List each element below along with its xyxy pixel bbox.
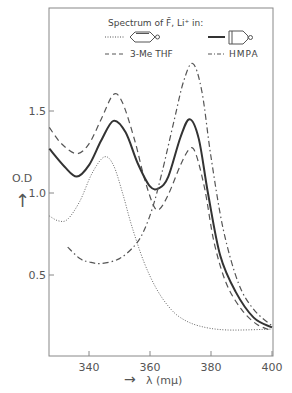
plot-frame: [49, 8, 273, 356]
y-axis-label: O.D: [12, 172, 32, 185]
curve-dashdot: [68, 63, 272, 326]
y-tick-label: 0.5: [29, 269, 47, 282]
x-tick-label: 340: [79, 361, 100, 374]
spectrum-curves: [49, 63, 272, 330]
axis-ticks: [49, 111, 272, 356]
vessel-icon: [229, 31, 253, 44]
legend-title: Spectrum of F̄, Li⁺ in:: [108, 17, 203, 28]
legend-label-hmpa: HMPA: [229, 49, 259, 59]
up-arrow-icon: ↑: [15, 190, 30, 211]
cyclohexene-ring-icon: [130, 32, 160, 42]
legend: Spectrum of F̄, Li⁺ in: 3-Me THF HMPA: [105, 17, 259, 59]
spectrum-chart: 3403603804000.51.01.5 Spectrum of F̄, Li…: [0, 0, 292, 393]
legend-label-3methf: 3-Me THF: [130, 49, 173, 59]
axis-tick-labels: 3403603804000.51.01.5: [29, 105, 283, 374]
x-tick-label: 380: [201, 361, 222, 374]
curve-dotted: [49, 157, 272, 330]
y-tick-label: 1.5: [29, 105, 47, 118]
y-tick-label: 1.0: [29, 187, 47, 200]
x-axis-label: λ (mμ): [146, 374, 182, 387]
x-tick-label: 400: [262, 361, 283, 374]
x-tick-label: 360: [140, 361, 161, 374]
right-arrow-icon: →: [124, 371, 136, 387]
